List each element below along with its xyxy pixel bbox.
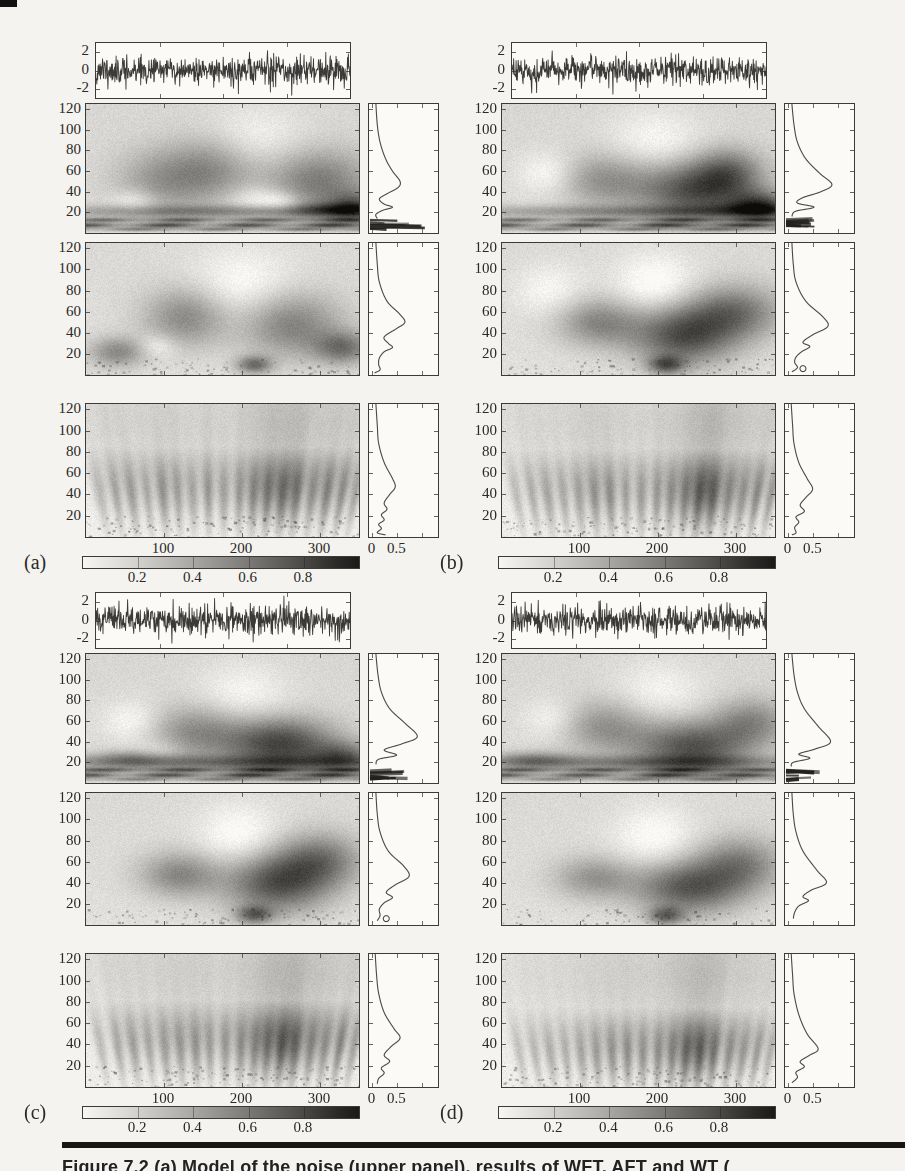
aft-scalogram-b bbox=[501, 242, 776, 376]
scalogram-y-tick-label: 120 bbox=[37, 400, 81, 417]
wft-spectrum-plot-b bbox=[784, 103, 855, 234]
aft-spectrum-canvas-d bbox=[785, 793, 854, 925]
scalogram-y-tick-label: 40 bbox=[37, 324, 81, 341]
aft-scalogram-canvas-c bbox=[86, 793, 359, 925]
scalogram-y-tick-label: 80 bbox=[37, 691, 81, 708]
scalogram-y-tick-label: 40 bbox=[453, 874, 497, 891]
scalogram-y-tick-label: 20 bbox=[37, 1057, 81, 1074]
signal-y-tick-label: 2 bbox=[469, 42, 505, 59]
panel-b: 20-2120100806040201201008060402012010080… bbox=[416, 0, 868, 594]
wt-scalogram-a bbox=[85, 403, 360, 538]
colorbar-tick-label: 0.2 bbox=[531, 1119, 575, 1136]
signal-y-tick-label: 0 bbox=[53, 61, 89, 78]
scalogram-x-tick-label: 200 bbox=[635, 1090, 679, 1107]
signal-y-tick-label: 2 bbox=[53, 592, 89, 609]
scalogram-y-tick-label: 80 bbox=[453, 141, 497, 158]
wt-spectrum-plot-b bbox=[784, 403, 855, 538]
wft-scalogram-canvas-c bbox=[86, 654, 359, 783]
aft-scalogram-canvas-b bbox=[502, 243, 775, 375]
colorbar-tick-label: 0.4 bbox=[170, 1119, 214, 1136]
figure-caption: Figure 7.2 (a) Model of the noise (upper… bbox=[62, 1156, 902, 1171]
scalogram-y-tick-label: 40 bbox=[37, 485, 81, 502]
scalogram-y-tick-label: 120 bbox=[453, 400, 497, 417]
spectrum-x-tick-label: 0.5 bbox=[380, 1090, 412, 1107]
scalogram-y-tick-label: 20 bbox=[453, 895, 497, 912]
scalogram-y-tick-label: 60 bbox=[453, 1014, 497, 1031]
noise-signal-canvas-d bbox=[512, 593, 766, 648]
signal-y-tick-label: 0 bbox=[53, 611, 89, 628]
aft-scalogram-canvas-d bbox=[502, 793, 775, 925]
colorbar-c bbox=[82, 1106, 360, 1119]
scalogram-y-tick-label: 80 bbox=[37, 993, 81, 1010]
scalogram-y-tick-label: 120 bbox=[37, 239, 81, 256]
wft-spectrum-canvas-d bbox=[785, 654, 854, 783]
scalogram-x-tick-label: 300 bbox=[713, 1090, 757, 1107]
wft-scalogram-canvas-d bbox=[502, 654, 775, 783]
colorbar-tick bbox=[138, 1107, 139, 1118]
wft-scalogram-canvas-b bbox=[502, 104, 775, 233]
scalogram-y-tick-label: 20 bbox=[37, 345, 81, 362]
colorbar-tick bbox=[720, 1107, 721, 1118]
scalogram-y-tick-label: 20 bbox=[453, 1057, 497, 1074]
scalogram-y-tick-label: 40 bbox=[453, 733, 497, 750]
scalogram-y-tick-label: 60 bbox=[453, 162, 497, 179]
colorbar-tick bbox=[609, 1107, 610, 1118]
scalogram-y-tick-label: 80 bbox=[37, 141, 81, 158]
scalogram-y-tick-label: 60 bbox=[37, 853, 81, 870]
scalogram-x-tick-label: 100 bbox=[557, 1090, 601, 1107]
noise-signal-plot-b bbox=[511, 42, 767, 99]
scalogram-y-tick-label: 80 bbox=[37, 832, 81, 849]
wt-scalogram-canvas-d bbox=[502, 954, 775, 1087]
aft-scalogram-d bbox=[501, 792, 776, 926]
scalogram-x-tick-label: 100 bbox=[141, 1090, 185, 1107]
noise-signal-plot-c bbox=[95, 592, 351, 649]
scalogram-y-tick-label: 40 bbox=[37, 183, 81, 200]
scalogram-y-tick-label: 120 bbox=[37, 650, 81, 667]
wt-scalogram-d bbox=[501, 953, 776, 1088]
scalogram-y-tick-label: 20 bbox=[37, 753, 81, 770]
scalogram-y-tick-label: 120 bbox=[453, 239, 497, 256]
signal-y-tick-label: -2 bbox=[53, 629, 89, 646]
aft-spectrum-canvas-b bbox=[785, 243, 854, 375]
colorbar-d bbox=[498, 1106, 776, 1119]
scalogram-y-tick-label: 100 bbox=[453, 972, 497, 989]
scalogram-y-tick-label: 100 bbox=[453, 810, 497, 827]
scalogram-y-tick-label: 80 bbox=[453, 443, 497, 460]
wt-scalogram-b bbox=[501, 403, 776, 538]
panel-d: 20-2120100806040201201008060402012010080… bbox=[416, 550, 868, 1144]
noise-signal-plot-a bbox=[95, 42, 351, 99]
scalogram-y-tick-label: 100 bbox=[37, 972, 81, 989]
aft-scalogram-canvas-a bbox=[86, 243, 359, 375]
wft-scalogram-c bbox=[85, 653, 360, 784]
scalogram-y-tick-label: 120 bbox=[453, 650, 497, 667]
scalogram-y-tick-label: 80 bbox=[453, 832, 497, 849]
panel-c: 20-2120100806040201201008060402012010080… bbox=[0, 550, 452, 1144]
scalogram-y-tick-label: 120 bbox=[453, 950, 497, 967]
scalogram-x-tick-label: 200 bbox=[219, 1090, 263, 1107]
colorbar-tick-label: 0.6 bbox=[642, 1119, 686, 1136]
wft-spectrum-plot-d bbox=[784, 653, 855, 784]
scalogram-y-tick-label: 100 bbox=[453, 422, 497, 439]
scalogram-y-tick-label: 100 bbox=[453, 260, 497, 277]
scalogram-y-tick-label: 100 bbox=[37, 121, 81, 138]
noise-signal-canvas-a bbox=[96, 43, 350, 98]
signal-y-tick-label: -2 bbox=[469, 79, 505, 96]
aft-scalogram-a bbox=[85, 242, 360, 376]
colorbar-tick-label: 0.6 bbox=[226, 1119, 270, 1136]
scalogram-y-tick-label: 100 bbox=[37, 422, 81, 439]
signal-y-tick-label: 0 bbox=[469, 611, 505, 628]
caption-separator-rule bbox=[62, 1142, 905, 1148]
scalogram-y-tick-label: 20 bbox=[37, 507, 81, 524]
scalogram-y-tick-label: 40 bbox=[37, 1035, 81, 1052]
scalogram-x-tick-label: 300 bbox=[297, 1090, 341, 1107]
scalogram-y-tick-label: 60 bbox=[453, 303, 497, 320]
scalogram-y-tick-label: 60 bbox=[37, 464, 81, 481]
wt-scalogram-canvas-c bbox=[86, 954, 359, 1087]
scalogram-y-tick-label: 120 bbox=[37, 950, 81, 967]
scalogram-y-tick-label: 20 bbox=[453, 507, 497, 524]
scalogram-y-tick-label: 60 bbox=[453, 712, 497, 729]
scalogram-y-tick-label: 60 bbox=[453, 853, 497, 870]
wt-scalogram-canvas-a bbox=[86, 404, 359, 537]
scalogram-y-tick-label: 60 bbox=[37, 712, 81, 729]
scalogram-y-tick-label: 20 bbox=[37, 895, 81, 912]
